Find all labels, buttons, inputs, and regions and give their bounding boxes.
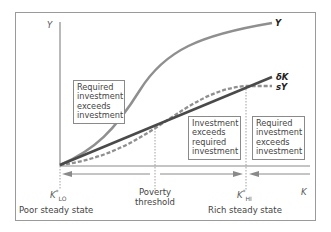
x-axis-label: K xyxy=(301,187,307,197)
arrow-right-head xyxy=(249,171,259,177)
sy-curve-label: sY xyxy=(276,82,287,92)
box-line: investment xyxy=(192,147,237,156)
dk-curve-label: δK xyxy=(276,72,288,82)
region-box-left: Required investment exceeds investment xyxy=(73,80,125,124)
box-line: investment xyxy=(256,147,301,156)
arrow-mid-head xyxy=(233,171,243,177)
k-hi-label: K*HI xyxy=(237,187,252,204)
rich-steady-state-caption: Rich steady state xyxy=(208,205,282,215)
k-lo-label: K*LO xyxy=(50,187,66,204)
box-line: investment xyxy=(77,111,121,120)
region-box-middle: Investment exceeds required investment xyxy=(188,116,241,160)
poor-steady-state-caption: Poor steady state xyxy=(19,205,93,215)
y-curve-label: Y xyxy=(275,18,281,28)
arrow-left-head xyxy=(62,171,72,177)
poverty-threshold-label: Povertythreshold xyxy=(130,187,180,207)
y-axis-label: Y xyxy=(47,20,52,30)
region-box-right: Required investment exceeds investment xyxy=(252,116,305,160)
